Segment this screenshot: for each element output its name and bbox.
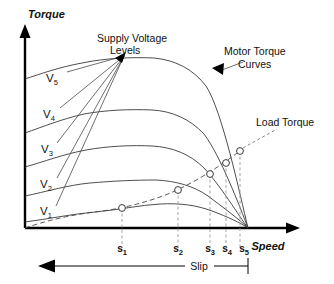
supply-voltage-label-line1: Supply Voltage	[97, 32, 167, 44]
motor-torque-label-line1: Motor Torque	[224, 45, 286, 57]
voltage-label-v3: V3	[41, 143, 53, 158]
motor-torque-label-line2: Curves	[238, 58, 271, 70]
curve-v5	[25, 58, 248, 228]
curve-v1	[25, 204, 248, 228]
slip-span-label: Slip	[190, 260, 208, 272]
voltage-labels-group: V5 V4 V3 V2 V1	[40, 72, 58, 220]
voltage-label-v4: V4	[43, 108, 55, 123]
slip-label-s1: s1	[117, 243, 127, 257]
slip-label-s3: s3	[205, 243, 215, 257]
operating-point-s2	[175, 187, 182, 194]
slip-label-s2: s2	[173, 243, 183, 257]
voltage-label-v1: V1	[40, 205, 52, 220]
leader-to-v2	[57, 56, 124, 178]
slip-arrowhead-left	[38, 260, 55, 273]
leader-to-v4	[60, 56, 124, 108]
voltage-label-v2: V2	[40, 178, 52, 193]
torque-speed-diagram: Torque Speed Supply Voltage Levels Motor…	[0, 0, 334, 284]
operating-point-s5	[237, 148, 244, 155]
supply-voltage-label-line2: Levels	[110, 44, 140, 56]
figure-root: Torque Speed Supply Voltage Levels Motor…	[0, 0, 334, 284]
voltage-label-v5: V5	[46, 72, 58, 87]
slip-label-s4: s4	[222, 243, 233, 257]
y-axis-arrowhead	[20, 24, 31, 38]
load-torque-label: Load Torque	[256, 116, 314, 128]
motor-torque-curves-group	[25, 58, 248, 228]
slip-tick-labels-group: s1 s2 s3 s4 s5	[117, 243, 249, 257]
operating-points-group	[119, 148, 244, 212]
slip-indicator-group	[38, 258, 248, 274]
operating-point-s4	[223, 160, 230, 167]
leader-load-torque	[243, 129, 277, 148]
y-axis-label: Torque	[28, 8, 65, 20]
curve-v3	[25, 146, 248, 228]
x-axis-label: Speed	[251, 240, 284, 252]
operating-point-s1	[119, 205, 126, 212]
operating-point-s3	[207, 171, 214, 178]
x-axis-arrowhead	[286, 223, 300, 234]
motor-torque-arrowhead	[212, 63, 224, 75]
slip-label-s5: s5	[239, 243, 249, 257]
